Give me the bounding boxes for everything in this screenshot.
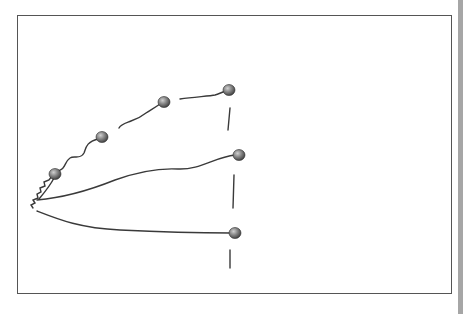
upper-branch-segment-1 bbox=[31, 176, 52, 208]
upper-branch-segment-2 bbox=[57, 139, 98, 171]
node-2 bbox=[96, 132, 108, 143]
node-4 bbox=[223, 85, 235, 96]
upper-branch-segment-3 bbox=[119, 104, 160, 128]
vertical-tick-2 bbox=[233, 175, 234, 208]
upper-branch-segment-4 bbox=[180, 91, 226, 99]
node-5 bbox=[233, 150, 245, 161]
node-3 bbox=[158, 97, 170, 108]
node-1 bbox=[49, 169, 61, 180]
node-6 bbox=[229, 228, 241, 239]
vertical-tick-1 bbox=[228, 108, 230, 130]
tree-diagram bbox=[0, 0, 470, 314]
lower-branch bbox=[37, 211, 231, 233]
